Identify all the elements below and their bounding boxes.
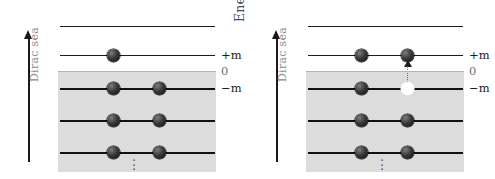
dirac-sea-figure: Energy Dirac sea +m 0 −m · · · [0,0,495,179]
level-line-zero [306,71,464,72]
ellipsis-dot: · [129,168,139,173]
ellipsis-dot: · [377,168,387,173]
particle [107,49,120,62]
level-line-continuum-top [308,26,463,27]
level-label-plus-m: +m [221,50,242,62]
vertical-ellipsis-icon: · · · [377,159,387,173]
level-line-minus-m [308,88,463,90]
particle [107,82,120,95]
level-label-plus-m: +m [469,50,490,62]
particle [401,114,414,127]
particle [153,114,166,127]
vertical-ellipsis-icon: · · · [129,159,139,173]
particle [401,146,414,159]
particle [153,146,166,159]
dirac-sea-label: Dirac sea [276,27,289,82]
panel-ground-state: Energy Dirac sea +m 0 −m · · · [0,0,247,179]
level-line-continuum-top [60,26,215,27]
level-line-sea-1 [308,120,463,122]
particle [355,114,368,127]
level-line-sea-2 [308,152,463,154]
energy-axis-label: Energy [232,0,247,22]
particle [355,82,368,95]
particle [355,49,368,62]
particle [153,82,166,95]
level-line-sea-2 [60,152,215,154]
level-line-zero [58,71,216,72]
level-line-plus-m [60,55,215,56]
particle [107,114,120,127]
hole [401,82,414,95]
level-line-minus-m [60,88,215,90]
dirac-sea-label: Dirac sea [28,27,41,82]
level-label-minus-m: −m [221,83,242,95]
level-label-minus-m: −m [469,83,490,95]
level-label-zero: 0 [469,66,476,78]
particle [107,146,120,159]
level-line-sea-1 [60,120,215,122]
level-line-plus-m [308,55,463,56]
particle [355,146,368,159]
panel-pair-created-state: Energy Dirac sea +m 0 −m · · [248,0,495,179]
level-label-zero: 0 [221,66,228,78]
